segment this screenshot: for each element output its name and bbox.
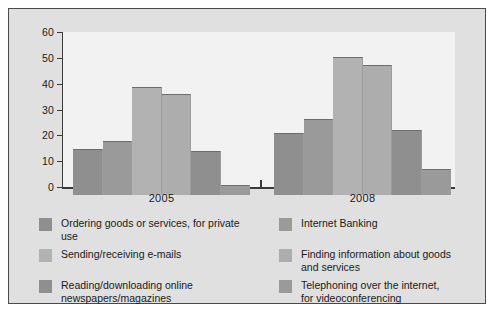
y-axis-tick-label: 50 xyxy=(42,52,54,64)
group-separator-tick xyxy=(260,180,262,188)
plot-wrapper: 0102030405060 2005 2008 xyxy=(62,32,455,195)
legend-label: Reading/downloading online newspapers/ma… xyxy=(61,279,193,304)
legend-item[interactable]: Reading/downloading online newspapers/ma… xyxy=(39,279,193,304)
bar xyxy=(132,87,162,196)
y-axis-tick-label: 20 xyxy=(42,129,54,141)
y-axis-tick xyxy=(57,161,62,162)
y-axis-line xyxy=(62,32,63,187)
legend-swatch-icon xyxy=(279,280,292,293)
bar xyxy=(221,185,251,195)
bar xyxy=(333,57,363,195)
legend-label: Internet Banking xyxy=(301,217,377,230)
y-axis-tick-label: 60 xyxy=(42,26,54,38)
legend-item[interactable]: Ordering goods or services, for private … xyxy=(39,217,254,242)
bar xyxy=(274,133,304,195)
y-axis-tick xyxy=(57,135,62,136)
x-axis-group-label-2008: 2008 xyxy=(350,192,376,204)
legend-swatch-icon xyxy=(39,280,52,293)
bar xyxy=(392,130,422,195)
legend-label: Finding information about goods and serv… xyxy=(301,248,451,273)
y-axis-tick xyxy=(57,187,62,188)
legend-swatch-icon xyxy=(39,218,52,231)
bar xyxy=(191,151,221,195)
bar xyxy=(73,149,103,196)
y-axis-tick-label: 30 xyxy=(42,104,54,116)
legend-item[interactable]: Internet Banking xyxy=(279,217,377,231)
legend-item[interactable]: Sending/receiving e-mails xyxy=(39,248,181,262)
bar xyxy=(103,141,133,195)
legend-swatch-icon xyxy=(279,249,292,262)
legend-item[interactable]: Finding information about goods and serv… xyxy=(279,248,451,273)
y-axis-tick-label: 0 xyxy=(48,181,54,193)
chart-legend: Ordering goods or services, for private … xyxy=(39,217,469,299)
chart-figure: 0102030405060 2005 2008 Ordering goods o… xyxy=(8,8,486,304)
legend-label: Ordering goods or services, for private … xyxy=(61,217,254,242)
legend-swatch-icon xyxy=(39,249,52,262)
legend-item[interactable]: Telephoning over the internet, for video… xyxy=(279,279,439,304)
y-axis-tick xyxy=(57,110,62,111)
bar xyxy=(304,119,334,195)
y-axis-tick xyxy=(57,58,62,59)
bar xyxy=(363,65,393,195)
y-axis-tick-label: 10 xyxy=(42,155,54,167)
x-axis-group-label-2005: 2005 xyxy=(149,192,175,204)
y-axis-tick-label: 40 xyxy=(42,78,54,90)
y-axis-tick xyxy=(57,84,62,85)
legend-label: Sending/receiving e-mails xyxy=(61,248,181,261)
bar xyxy=(422,169,452,195)
bar xyxy=(162,94,192,195)
legend-label: Telephoning over the internet, for video… xyxy=(301,279,439,304)
legend-swatch-icon xyxy=(279,218,292,231)
y-axis-tick xyxy=(57,32,62,33)
